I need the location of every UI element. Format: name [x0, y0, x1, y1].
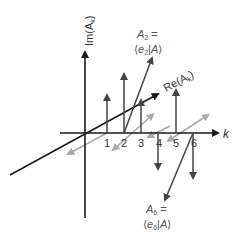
a2-label-line2: ⟨e2|A⟩ — [134, 43, 162, 56]
vector-component-diagram: 1 2 3 4 5 6 k Im(Ak) Re(Ak) A2 = ⟨e2|A⟩ … — [0, 0, 234, 232]
a6-label-line2: ⟨e6|A⟩ — [143, 218, 171, 231]
imaginary-axis-label: Im(Ak) — [83, 16, 96, 46]
tick-label-2: 2 — [121, 137, 127, 149]
annotation-a6: A6 = ⟨e6|A⟩ — [143, 203, 171, 231]
resultant-arrow-a2 — [124, 58, 152, 133]
k-axis-label: k — [223, 127, 230, 141]
real-axis — [10, 94, 158, 175]
tick-label-3: 3 — [138, 137, 144, 149]
tick-label-5: 5 — [173, 137, 179, 149]
real-arrow-k4 — [148, 126, 170, 137]
tick-label-1: 1 — [104, 137, 110, 149]
a6-label-line1: A6 = — [145, 203, 167, 216]
real-axis-label: Re(Ak) — [161, 68, 196, 95]
real-component-arrows — [68, 117, 205, 154]
annotation-a2: A2 = ⟨e2|A⟩ — [134, 28, 162, 56]
a2-label-line1: A2 = — [136, 28, 158, 41]
k-tick-labels: 1 2 3 4 5 6 — [104, 137, 197, 149]
tick-label-6: 6 — [191, 137, 197, 149]
tick-label-4: 4 — [156, 137, 162, 149]
real-arrow-k1 — [68, 133, 107, 154]
